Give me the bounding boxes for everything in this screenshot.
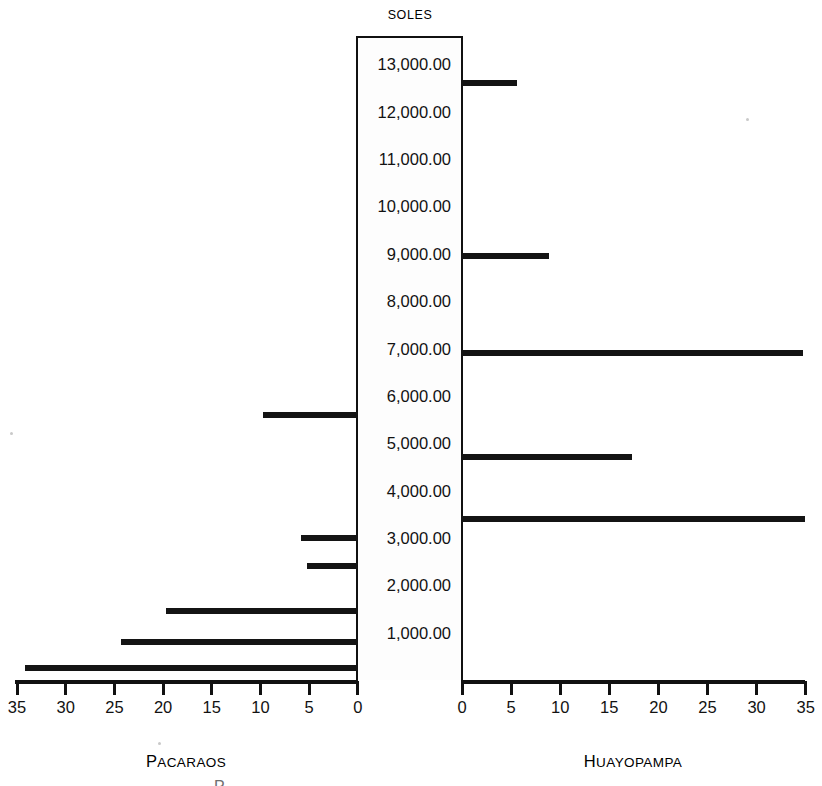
left-axis-number: 5 — [289, 699, 329, 716]
pacaraos-bar — [121, 639, 358, 645]
left-axis-number: 0 — [338, 699, 378, 716]
soles-tick-label: 5,000.00 — [356, 435, 451, 452]
left-axis-number: 20 — [143, 699, 183, 716]
left-axis-tick — [356, 681, 359, 695]
left-caption-rest: ACARAOS — [157, 755, 226, 770]
right-axis-number: 5 — [491, 699, 531, 716]
right-axis-number: 20 — [638, 699, 678, 716]
huayopampa-bar — [461, 454, 632, 460]
right-axis-tick — [510, 681, 513, 695]
left-axis-tick — [210, 681, 213, 695]
soles-tick-label: 4,000.00 — [356, 483, 451, 500]
population-pyramid-chart: SOLES 13,000.0012,000.0011,000.0010,000.… — [0, 0, 822, 786]
huayopampa-bar — [461, 253, 549, 259]
soles-tick-label: 10,000.00 — [356, 198, 451, 215]
left-axis-tick — [259, 681, 262, 695]
left-axis-number: 10 — [241, 699, 281, 716]
soles-tick-label: 12,000.00 — [356, 104, 451, 121]
soles-tick-label: 2,000.00 — [356, 577, 451, 594]
soles-tick-label: 9,000.00 — [356, 246, 451, 263]
pacaraos-bar — [263, 412, 358, 418]
left-axis-number: 35 — [0, 699, 37, 716]
left-axis-tick — [113, 681, 116, 695]
scan-artifact-glyph: P — [214, 779, 225, 786]
right-axis-tick — [804, 681, 807, 695]
left-caption-initial: P — [146, 752, 157, 770]
right-axis-number: 30 — [737, 699, 777, 716]
right-axis-line — [461, 680, 805, 684]
right-axis-number: 25 — [688, 699, 728, 716]
scan-speck — [158, 742, 161, 745]
right-axis-tick — [608, 681, 611, 695]
pacaraos-bar — [301, 535, 358, 541]
scan-speck — [10, 432, 13, 435]
huayopampa-bar — [461, 80, 517, 86]
right-caption-rest: UAYOPAMPA — [596, 755, 682, 770]
soles-tick-label: 8,000.00 — [356, 293, 451, 310]
right-axis-tick — [755, 681, 758, 695]
right-axis-tick — [559, 681, 562, 695]
left-axis-caption: PACARAOS — [86, 752, 286, 771]
scan-speck — [746, 118, 749, 121]
right-axis-number: 35 — [786, 699, 822, 716]
left-axis-number: 25 — [94, 699, 134, 716]
huayopampa-bar — [461, 516, 805, 522]
pacaraos-bar — [25, 665, 358, 671]
soles-tick-label: 3,000.00 — [356, 530, 451, 547]
soles-tick-label: 13,000.00 — [356, 56, 451, 73]
right-axis-number: 0 — [442, 699, 482, 716]
left-axis-number: 30 — [46, 699, 86, 716]
left-axis-tick — [64, 681, 67, 695]
left-axis-number: 15 — [192, 699, 232, 716]
soles-tick-label: 11,000.00 — [356, 151, 451, 168]
right-axis-caption: HUAYOPAMPA — [533, 752, 733, 771]
huayopampa-bar — [461, 350, 803, 356]
soles-tick-label: 7,000.00 — [356, 341, 451, 358]
pacaraos-bar — [166, 608, 358, 614]
right-caption-initial: H — [584, 752, 596, 770]
left-axis-tick — [16, 681, 19, 695]
soles-tick-label: 6,000.00 — [356, 388, 451, 405]
chart-title: SOLES — [356, 8, 464, 22]
right-axis-tick — [461, 681, 464, 695]
left-axis-tick — [308, 681, 311, 695]
right-axis-tick — [657, 681, 660, 695]
right-axis-number: 15 — [589, 699, 629, 716]
left-axis-tick — [162, 681, 165, 695]
soles-tick-label: 1,000.00 — [356, 625, 451, 642]
pacaraos-bar — [307, 563, 358, 569]
right-axis-tick — [706, 681, 709, 695]
right-axis-number: 10 — [540, 699, 580, 716]
